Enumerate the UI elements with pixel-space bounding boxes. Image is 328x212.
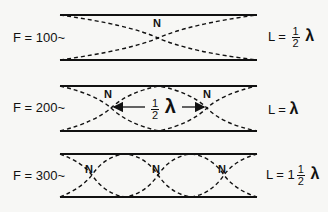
frequency-label-300: F = 300~ <box>13 168 65 183</box>
length-label-half-lambda: L = 12 λ <box>268 26 314 49</box>
half-wavelength-annotation: 12 λ <box>149 95 176 121</box>
fraction: 12 <box>297 164 305 187</box>
node-label: N <box>153 17 161 29</box>
node-label: N <box>104 88 112 100</box>
fraction: 12 <box>151 98 159 121</box>
node-label: N <box>85 163 93 175</box>
node-label: N <box>203 88 211 100</box>
frequency-label-200: F = 200~ <box>13 100 65 115</box>
lambda-symbol: λ <box>290 100 299 117</box>
length-label-lambda: L = λ <box>268 100 298 118</box>
length-prefix: L = <box>268 102 286 117</box>
node-label: N <box>218 163 226 175</box>
length-whole: 1 <box>288 167 295 182</box>
lambda-symbol: λ <box>311 165 320 182</box>
frequency-label-100: F = 100~ <box>13 30 65 45</box>
length-label-one-and-half-lambda: L = 112 λ <box>266 164 319 187</box>
length-prefix: L = <box>268 29 286 44</box>
node-label: N <box>152 163 160 175</box>
length-prefix: L = <box>266 167 284 182</box>
lambda-symbol: λ <box>305 27 314 44</box>
tube-3 <box>60 154 257 197</box>
lambda-symbol: λ <box>165 95 176 117</box>
fraction: 12 <box>292 26 300 49</box>
